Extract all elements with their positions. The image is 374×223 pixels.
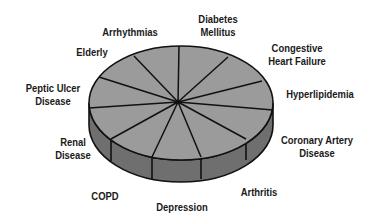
pie-diagram: Diabetes Mellitus Congestive Heart Failu…	[0, 0, 374, 223]
pie-center	[176, 100, 180, 104]
label-coronary-artery-disease: Coronary Artery Disease	[274, 134, 361, 160]
label-peptic-ulcer-disease: Peptic Ulcer Disease	[16, 82, 90, 108]
label-congestive-heart-failure: Congestive Heart Failure	[260, 42, 334, 68]
pie-graphic	[0, 0, 374, 223]
label-diabetes-mellitus: Diabetes Mellitus	[193, 13, 242, 39]
label-hyperlipidemia: Hyperlipidemia	[279, 88, 361, 101]
label-arthritis: Arthritis	[230, 186, 287, 199]
label-arrhythmias: Arrhythmias	[97, 26, 163, 39]
label-renal-disease: Renal Disease	[44, 136, 101, 162]
label-depression: Depression	[151, 201, 213, 214]
label-copd: COPD	[85, 190, 126, 203]
label-elderly: Elderly	[67, 46, 116, 59]
